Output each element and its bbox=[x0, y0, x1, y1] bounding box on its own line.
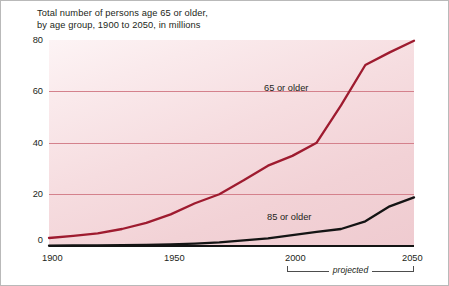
x-tick-label-2050: 2050 bbox=[402, 253, 423, 263]
projected-label: projected bbox=[287, 265, 414, 275]
chart-lines bbox=[49, 40, 414, 246]
series-label-85-or-older: 85 or older bbox=[267, 212, 311, 222]
y-tick-label-0: 0 bbox=[13, 235, 43, 245]
y-tick-label-40: 40 bbox=[13, 138, 43, 148]
projected-bracket: projected bbox=[287, 265, 414, 279]
series-label-65-or-older: 65 or older bbox=[264, 83, 308, 93]
x-tick-label-1900: 1900 bbox=[42, 253, 63, 263]
line-series-85-or-older bbox=[49, 197, 414, 245]
y-tick-label-60: 60 bbox=[13, 86, 43, 96]
x-axis-line bbox=[49, 245, 414, 247]
line-series-65-or-older bbox=[49, 41, 414, 238]
chart-frame: Total number of persons age 65 or older,… bbox=[0, 0, 449, 286]
x-tick-label-1950: 1950 bbox=[164, 253, 185, 263]
y-tick-label-80: 80 bbox=[13, 35, 43, 45]
x-tick-label-2000: 2000 bbox=[285, 253, 306, 263]
chart-title: Total number of persons age 65 or older,… bbox=[37, 7, 208, 32]
y-tick-label-20: 20 bbox=[13, 189, 43, 199]
plot-area: 65 or older 85 or older bbox=[49, 40, 414, 246]
